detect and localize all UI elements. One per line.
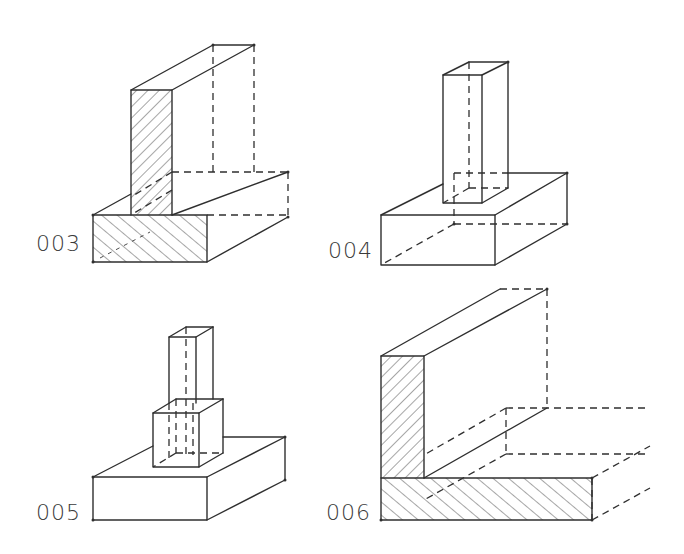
figure-label-004: 004 — [328, 238, 373, 263]
footing-section-hatch — [381, 478, 592, 520]
figure-005 — [92, 327, 287, 522]
figure-003 — [92, 44, 290, 264]
drawing-sheet — [0, 0, 684, 554]
wall-section-hatch — [131, 90, 172, 215]
footing-section-hatch — [93, 215, 207, 262]
figure-004 — [381, 61, 569, 266]
wall-section-hatch — [381, 356, 424, 478]
figure-006 — [380, 288, 651, 522]
figure-label-003: 003 — [36, 231, 81, 256]
figure-label-006: 006 — [326, 500, 371, 525]
figure-label-005: 005 — [36, 500, 81, 525]
